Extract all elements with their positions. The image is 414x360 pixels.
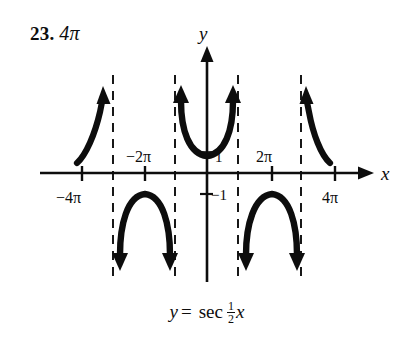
y-axis-label: y [197,23,208,44]
branch-partial-left-up [77,86,111,163]
tick-label-neg-one: −1 [211,187,227,203]
y-axis [201,46,214,282]
fraction-numerator: 1 [227,300,235,312]
tick-label-2pi: 2π [256,148,272,165]
figure-root: 23.4π [0,0,414,360]
figure-caption: y=sec12x [0,300,414,326]
tick-label-4pi: 4π [322,189,338,206]
caption-equals: = [181,301,192,322]
branch-down-right [238,194,305,271]
x-axis-label: x [380,163,390,184]
caption-variable: x [236,301,244,322]
branch-partial-right-up [300,86,331,163]
fraction-denominator: 2 [227,312,235,325]
branch-down-left [112,194,178,271]
caption-function: sec [199,301,223,322]
caption-lhs: y [170,301,178,322]
tick-label-neg-2pi: −2π [126,148,151,165]
tick-label-one: 1 [215,149,223,165]
tick-label-neg-4pi: −4π [56,189,81,206]
caption-fraction: 12 [227,300,235,326]
